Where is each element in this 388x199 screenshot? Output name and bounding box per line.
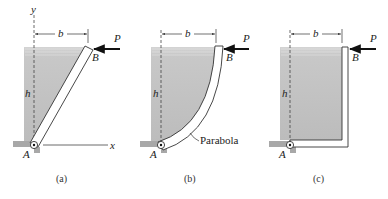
point-b-label: B [226,51,233,63]
dimension-b-label: b [58,27,64,39]
x-axis-label: x [109,139,115,151]
point-a-label: A [22,148,30,160]
dimension-h-label: h [25,87,31,99]
caption-c: (c) [313,173,324,185]
caption-b: (b) [184,173,196,185]
figure-canvas: y x b h A B P (a) [0,0,388,199]
dimension-h-label: h [153,87,159,99]
point-b-label: B [352,51,359,63]
point-b-label: B [92,51,99,63]
fluid-region [280,47,342,140]
force-p-label: P [369,32,377,44]
ground-support [140,141,160,147]
force-p-label: P [113,32,121,44]
point-a-label: A [149,148,157,160]
point-a-label: A [278,148,286,160]
ground-support [13,141,33,147]
panel-b: b h A B Parabola P (b) [140,27,250,185]
force-p-label: P [242,32,250,44]
dimension-b-label: b [185,27,191,39]
parabola-label: Parabola [200,134,239,146]
caption-a: (a) [56,173,67,185]
dimension-b-label: b [313,27,319,39]
ground-support [269,141,289,147]
panel-c: b h A B P (c) [269,27,377,185]
y-axis-label: y [30,3,36,15]
panel-a: y x b h A B P (a) [13,3,121,185]
dimension-h-label: h [282,87,288,99]
